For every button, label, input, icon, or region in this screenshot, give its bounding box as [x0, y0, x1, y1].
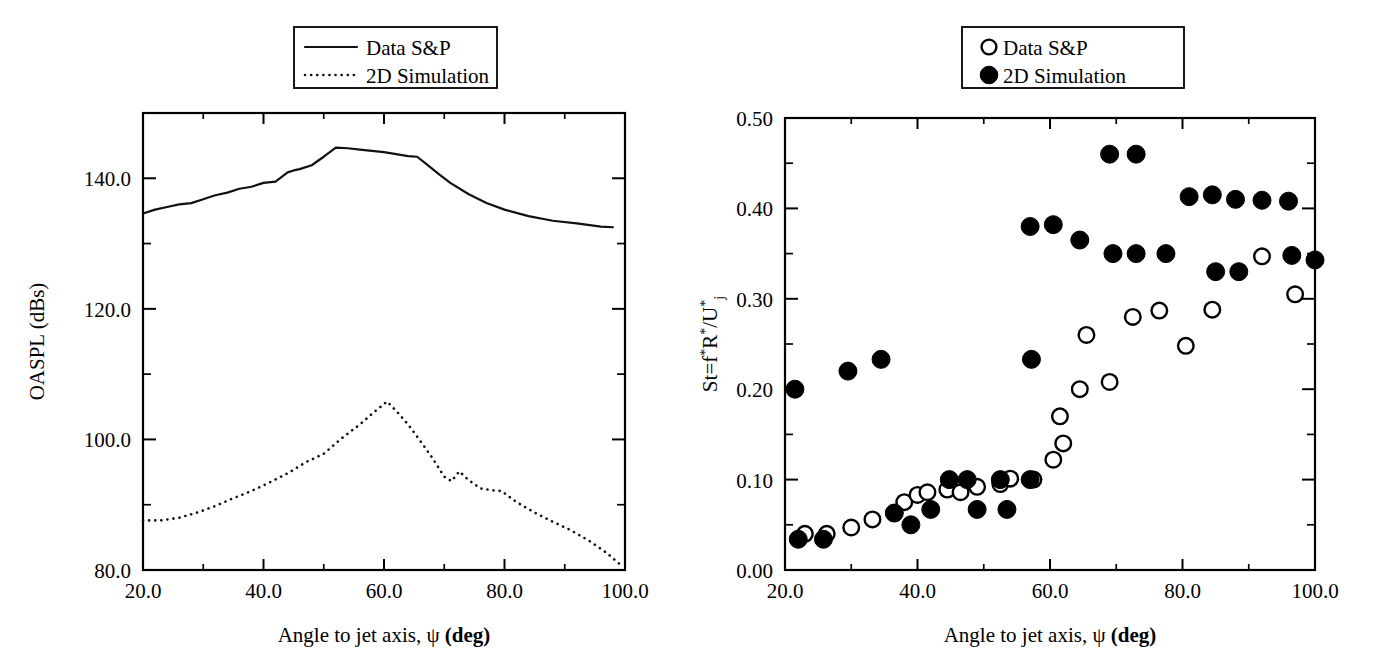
oaspl-directivity-panel: 20.040.060.080.0100.080.0100.0120.0140.0… — [0, 0, 690, 661]
y-tick-label: 120.0 — [84, 298, 131, 322]
marker-data-sp — [1152, 303, 1168, 319]
marker-2d-simulation — [789, 530, 807, 548]
axis-ticks: 20.040.060.080.0100.080.0100.0120.0140.0 — [84, 113, 649, 603]
svg-text:Angle to jet axis, ψ (deg): Angle to jet axis, ψ (deg) — [278, 623, 491, 647]
marker-2d-simulation — [1044, 216, 1062, 234]
marker-data-sp — [843, 520, 859, 536]
marker-data-sp — [1052, 409, 1068, 425]
legend-label: 2D Simulation — [366, 64, 490, 88]
marker-2d-simulation — [1157, 245, 1175, 263]
filled-circle-marker — [980, 66, 998, 84]
marker-2d-simulation — [1071, 231, 1089, 249]
svg-text:St=f*R*/U*j: St=f*R*/U*j — [698, 296, 727, 392]
marker-2d-simulation — [968, 500, 986, 518]
marker-2d-simulation — [1021, 471, 1039, 489]
x-tick-label: 80.0 — [486, 579, 523, 603]
marker-data-sp — [865, 512, 881, 528]
y-tick-label: 0.50 — [736, 107, 773, 131]
oaspl-directivity-chart: 20.040.060.080.0100.080.0100.0120.0140.0… — [0, 0, 690, 661]
strouhal-peak-chart: 20.040.060.080.0100.00.000.100.200.300.4… — [690, 0, 1379, 661]
curve-2d-simulation — [143, 402, 619, 564]
marker-2d-simulation — [1230, 263, 1248, 281]
marker-data-sp — [1287, 286, 1303, 302]
marker-data-sp — [1046, 452, 1062, 468]
marker-2d-simulation — [1127, 145, 1145, 163]
marker-2d-simulation — [1180, 188, 1198, 206]
marker-2d-simulation — [1280, 192, 1298, 210]
marker-2d-simulation — [958, 471, 976, 489]
legend: Data S&P2D Simulation — [294, 27, 497, 88]
marker-2d-simulation — [940, 471, 958, 489]
y-tick-label: 0.40 — [736, 197, 773, 221]
y-tick-label: 140.0 — [84, 167, 131, 191]
marker-2d-simulation — [814, 530, 832, 548]
marker-2d-simulation — [885, 504, 903, 522]
y-axis-title: OASPL (dBs) — [25, 283, 49, 401]
legend: Data S&P2D Simulation — [962, 27, 1184, 88]
marker-data-sp — [920, 484, 936, 500]
marker-data-sp — [1079, 327, 1095, 343]
x-tick-label: 100.0 — [601, 579, 648, 603]
marker-data-sp — [1055, 436, 1071, 452]
marker-2d-simulation — [1227, 190, 1245, 208]
marker-2d-simulation — [1101, 145, 1119, 163]
y-axis-title: St=f*R*/U*j — [698, 296, 727, 392]
y-tick-label: 80.0 — [94, 559, 131, 583]
marker-data-sp — [1178, 338, 1194, 354]
legend-label: Data S&P — [1003, 36, 1088, 60]
data-markers — [786, 145, 1324, 548]
x-axis-title: Angle to jet axis, ψ (deg) — [278, 623, 491, 647]
legend-label: 2D Simulation — [1003, 64, 1127, 88]
plot-frame — [785, 118, 1315, 570]
svg-text:OASPL (dBs): OASPL (dBs) — [25, 283, 49, 401]
marker-2d-simulation — [786, 380, 804, 398]
y-tick-label: 100.0 — [84, 428, 131, 452]
marker-2d-simulation — [1127, 245, 1145, 263]
marker-2d-simulation — [1021, 217, 1039, 235]
svg-text:Angle to jet axis, ψ (deg): Angle to jet axis, ψ (deg) — [944, 623, 1157, 647]
y-tick-label: 0.30 — [736, 288, 773, 312]
x-tick-label: 40.0 — [899, 579, 936, 603]
x-tick-label: 60.0 — [366, 579, 403, 603]
marker-2d-simulation — [998, 500, 1016, 518]
marker-2d-simulation — [902, 516, 920, 534]
y-tick-label: 0.20 — [736, 378, 773, 402]
marker-data-sp — [1072, 381, 1088, 397]
y-tick-label: 0.00 — [736, 559, 773, 583]
marker-data-sp — [1254, 249, 1270, 265]
plot-frame — [143, 113, 625, 570]
curve-data-sp — [143, 148, 613, 228]
marker-2d-simulation — [1104, 245, 1122, 263]
strouhal-peak-panel: 20.040.060.080.0100.00.000.100.200.300.4… — [690, 0, 1379, 661]
marker-data-sp — [1125, 309, 1141, 325]
x-axis-title: Angle to jet axis, ψ (deg) — [944, 623, 1157, 647]
data-curves — [143, 148, 619, 564]
x-tick-label: 40.0 — [245, 579, 282, 603]
open-circle-marker — [982, 40, 997, 55]
marker-2d-simulation — [991, 471, 1009, 489]
x-tick-label: 100.0 — [1291, 579, 1338, 603]
marker-2d-simulation — [922, 500, 940, 518]
marker-2d-simulation — [1022, 350, 1040, 368]
marker-data-sp — [1102, 374, 1118, 390]
marker-2d-simulation — [872, 350, 890, 368]
marker-2d-simulation — [1253, 191, 1271, 209]
x-tick-label: 80.0 — [1164, 579, 1201, 603]
x-tick-label: 60.0 — [1032, 579, 1069, 603]
y-tick-label: 0.10 — [736, 469, 773, 493]
marker-2d-simulation — [1207, 263, 1225, 281]
marker-data-sp — [1205, 302, 1221, 318]
figure-root: 20.040.060.080.0100.080.0100.0120.0140.0… — [0, 0, 1379, 661]
legend-label: Data S&P — [366, 36, 451, 60]
marker-2d-simulation — [1283, 246, 1301, 264]
marker-2d-simulation — [839, 362, 857, 380]
marker-2d-simulation — [1306, 251, 1324, 269]
marker-2d-simulation — [1203, 186, 1221, 204]
